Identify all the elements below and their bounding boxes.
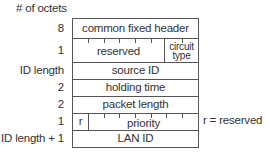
row-holding-time: holding time [73,80,198,97]
field-packet-length: packet length [73,97,198,113]
octet-label-priority: 1 [58,115,64,127]
row-source-id: source ID [73,63,198,80]
pdu-frame: common fixed header reserved circuit typ… [72,18,199,148]
field-reserved: reserved [73,39,164,62]
row-r-priority: r priority [73,114,198,131]
field-r-reserved-bit: r [73,114,88,130]
field-holding-time: holding time [73,80,198,96]
field-priority: priority [88,114,198,130]
circuit-type-line2: type [172,51,190,60]
field-circuit-type: circuit type [164,39,198,62]
octets-column-title: # of octets [16,2,67,14]
field-common-fixed-header: common fixed header [73,19,198,38]
row-packet-length: packet length [73,97,198,114]
legend-r-reserved: r = reserved [203,114,262,126]
octet-label-holding-time: 2 [58,81,64,93]
row-lan-id: LAN ID [73,131,198,148]
row-common-fixed-header: common fixed header [73,19,198,39]
octet-label-source-id: ID length [20,64,64,76]
field-source-id: source ID [73,63,198,79]
octet-label-packet-length: 2 [58,98,64,110]
octet-label-reserved: 1 [58,44,64,56]
row-reserved-circuit-type: reserved circuit type [73,39,198,63]
octet-label-lan-id: ID length + 1 [1,132,64,144]
field-lan-id: LAN ID [73,131,198,147]
octet-label-common-header: 8 [58,22,64,34]
